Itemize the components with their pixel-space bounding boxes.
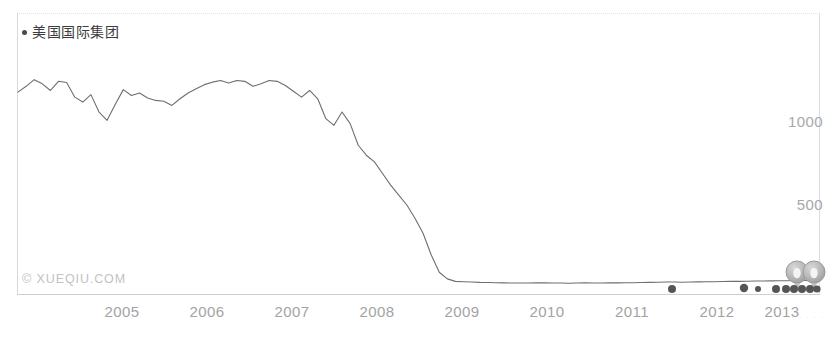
series-line-group [18, 80, 820, 284]
chart-legend: 美国国际集团 [22, 25, 119, 39]
y-axis-tick-500: 500 [797, 196, 823, 213]
chart-canvas [0, 0, 835, 341]
y-axis-tick-1000: 1000 [788, 113, 823, 130]
event-balloon-right-glyph [810, 268, 817, 279]
legend-series-label: 美国国际集团 [32, 25, 119, 39]
x-axis-tick-2007: 2007 [275, 303, 310, 320]
event-balloon-right[interactable] [803, 261, 825, 289]
stock-price-chart: 美国国际集团 © XUEQIU.COM 1000500 200520062007… [0, 0, 835, 341]
marker-2013-08[interactable] [790, 285, 798, 293]
marker-2013-04[interactable] [755, 286, 761, 292]
x-axis-tick-2011: 2011 [615, 303, 649, 320]
x-axis-tick-2006: 2006 [190, 303, 225, 320]
marker-2013-11[interactable] [813, 285, 820, 292]
marker-2013-10[interactable] [806, 285, 814, 293]
marker-2013-07[interactable] [782, 285, 790, 293]
corner-artifact-text: · · · · · · [784, 313, 824, 322]
event-marker-group [786, 261, 825, 289]
legend-dot-icon [22, 30, 27, 35]
marker-2013-06[interactable] [772, 285, 780, 293]
series-line-aig [18, 80, 820, 284]
x-axis-tick-2009: 2009 [445, 303, 480, 320]
watermark-xueqiu: © XUEQIU.COM [22, 272, 126, 286]
x-axis-tick-2010: 2010 [530, 303, 565, 320]
marker-2013-02[interactable] [740, 284, 748, 292]
marker-2011-12[interactable] [668, 285, 676, 293]
event-balloon-left-glyph [793, 268, 800, 279]
marker-2013-09[interactable] [798, 285, 806, 293]
x-axis-tick-2008: 2008 [360, 303, 395, 320]
x-axis-tick-2012: 2012 [700, 303, 735, 320]
x-axis-tick-2005: 2005 [105, 303, 140, 320]
